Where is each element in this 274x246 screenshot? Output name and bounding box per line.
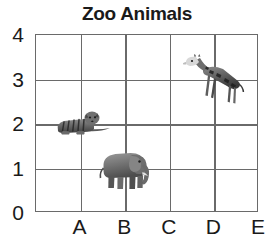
y-axis-tick-label: 2 <box>3 113 33 134</box>
x-axis-tick-label: A <box>65 216 95 237</box>
gridline-vertical <box>170 35 172 211</box>
x-axis-tick-label: B <box>109 216 139 237</box>
x-axis-tick-label: E <box>243 216 273 237</box>
y-axis-tick-label: 3 <box>3 68 33 89</box>
x-axis-labels: ABCDE <box>35 216 258 244</box>
y-axis-tick-label: 1 <box>3 157 33 178</box>
chart-title: Zoo Animals <box>0 2 274 26</box>
zoo-animals-chart: Zoo Animals 43210 <box>0 0 274 246</box>
y-axis-tick-label: 4 <box>3 24 33 45</box>
y-axis-labels: 43210 <box>0 34 33 212</box>
elephant-icon <box>98 147 153 191</box>
x-axis-tick-label: C <box>154 216 184 237</box>
plot-area <box>35 34 258 212</box>
y-axis-tick-label: 0 <box>3 202 33 223</box>
tiger-icon <box>50 109 112 139</box>
giraffe-icon <box>183 54 245 106</box>
x-axis-tick-label: D <box>198 216 228 237</box>
